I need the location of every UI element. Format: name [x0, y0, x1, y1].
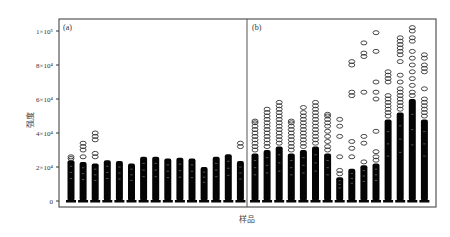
sample-box	[114, 161, 124, 202]
panel-b: (b)	[250, 23, 429, 203]
sample-box	[274, 100, 284, 202]
sample-box	[371, 31, 381, 203]
outlier-point	[80, 155, 86, 159]
sample-box	[286, 119, 296, 202]
box-base	[102, 200, 112, 203]
box-base	[187, 200, 197, 203]
sample-box	[211, 157, 221, 203]
box-base	[235, 200, 245, 203]
outlier-point	[373, 90, 379, 94]
outlier-point	[349, 146, 355, 150]
y-tick-label: 0	[50, 198, 54, 206]
outlier-point	[361, 90, 367, 94]
outlier-point	[325, 140, 331, 144]
sample-box	[347, 60, 357, 203]
box-base	[223, 200, 233, 203]
box-plot-chart: 02×10⁴4×10⁴6×10⁴8×10⁴1×10⁵ (a)(b) 强度 样品	[0, 0, 450, 237]
box-base	[211, 200, 221, 203]
outlier-point	[373, 150, 379, 154]
panel-a: (a)	[63, 23, 245, 203]
sample-box	[383, 70, 393, 203]
outlier-point	[349, 140, 355, 144]
outlier-point	[397, 60, 403, 64]
outlier-point	[361, 134, 367, 138]
box-base	[407, 200, 417, 203]
outlier-point	[421, 87, 427, 91]
box-base	[151, 200, 161, 203]
box-base	[383, 200, 393, 203]
sample-box	[359, 41, 369, 203]
outlier-point	[373, 129, 379, 133]
box-base	[139, 200, 149, 203]
box-base	[250, 200, 260, 203]
outlier-point	[337, 134, 343, 138]
box-base	[419, 200, 429, 203]
box-base	[347, 200, 357, 203]
sample-box	[163, 159, 173, 203]
sample-box	[311, 100, 321, 202]
outlier-point	[361, 41, 367, 45]
sample-box	[199, 167, 209, 203]
y-tick-label: 4×10⁴	[36, 130, 53, 138]
outlier-point	[409, 49, 415, 53]
box-base	[323, 200, 333, 203]
outlier-point	[337, 124, 343, 128]
y-axis: 02×10⁴4×10⁴6×10⁴8×10⁴1×10⁵	[36, 28, 59, 206]
sample-box	[127, 164, 137, 203]
sample-box	[407, 26, 417, 203]
y-tick-label: 8×10⁴	[36, 62, 53, 70]
sample-box	[235, 141, 245, 202]
box-base	[395, 200, 405, 203]
sample-box	[187, 159, 197, 203]
outlier-point	[373, 49, 379, 53]
x-axis-title: 样品	[239, 214, 255, 224]
box-base	[127, 200, 137, 203]
sample-box	[90, 131, 100, 203]
sample-box	[223, 154, 233, 202]
sample-box	[298, 106, 308, 203]
box-base	[298, 200, 308, 203]
sample-box	[78, 141, 88, 202]
panel-label: (a)	[63, 23, 72, 32]
outlier-point	[409, 77, 415, 81]
outlier-point	[361, 160, 367, 164]
box-base	[78, 200, 88, 203]
box-base	[335, 200, 345, 203]
outlier-point	[373, 31, 379, 35]
sample-box	[250, 119, 260, 202]
outlier-point	[409, 83, 415, 87]
box-base	[66, 200, 76, 203]
box-base	[274, 200, 284, 203]
outlier-point	[349, 155, 355, 159]
outlier-point	[409, 70, 415, 74]
outlier-point	[397, 80, 403, 84]
outlier-point	[409, 63, 415, 67]
sample-box	[139, 157, 149, 203]
box-base	[359, 200, 369, 203]
outlier-point	[361, 141, 367, 145]
sample-box	[151, 157, 161, 203]
y-tick-label: 1×10⁵	[36, 28, 53, 36]
sample-box	[102, 160, 112, 202]
outlier-point	[409, 56, 415, 60]
outlier-point	[300, 106, 306, 110]
outlier-point	[325, 129, 331, 133]
box-base	[311, 200, 321, 203]
box-base	[90, 200, 100, 203]
outlier-point	[397, 73, 403, 77]
box-base	[371, 200, 381, 203]
sample-box	[335, 117, 345, 202]
sample-box	[175, 158, 185, 203]
box-base	[163, 200, 173, 203]
y-tick-label: 2×10⁴	[36, 164, 53, 172]
box-base	[114, 200, 124, 203]
sample-box	[262, 107, 272, 202]
box-base	[175, 200, 185, 203]
outlier-point	[325, 134, 331, 138]
plot-panels: (a)(b)	[63, 23, 429, 203]
y-tick-label: 6×10⁴	[36, 96, 53, 104]
box-base	[286, 200, 296, 203]
panel-label: (b)	[252, 23, 262, 32]
sample-box	[323, 112, 333, 202]
sample-box	[395, 36, 405, 203]
